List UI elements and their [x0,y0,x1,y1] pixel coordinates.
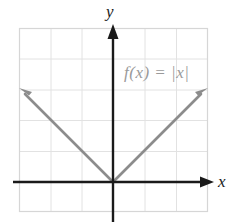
absolute-value-function-graph: y x f(x) = |x| [0,0,236,222]
function-equation-label: f(x) = |x| [124,64,189,81]
y-axis-label: y [106,3,114,20]
plot-canvas [0,0,236,222]
x-axis-label: x [218,173,226,190]
